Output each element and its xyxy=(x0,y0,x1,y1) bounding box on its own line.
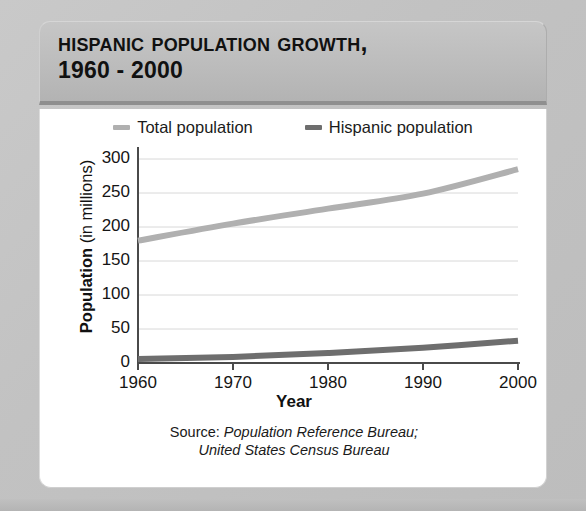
y-axis-tick-label: 0 xyxy=(74,352,130,372)
chart-title-panel: Hispanic Population Growth, 1960 - 2000 xyxy=(39,21,547,105)
page-title: Hispanic Population Growth, 1960 - 2000 xyxy=(58,29,546,82)
chart-title-line-2: 1960 - 2000 xyxy=(58,58,546,82)
source-line-2: United States Census Bureau xyxy=(40,442,548,460)
source-publisher-2: United States Census Bureau xyxy=(198,442,389,458)
bottom-edge-shade xyxy=(0,499,586,511)
figure-container: Hispanic Population Growth, 1960 - 2000 … xyxy=(0,0,586,511)
source-line-1: Source: Population Reference Bureau; xyxy=(40,424,548,442)
source-note: Source: Population Reference Bureau; Uni… xyxy=(40,424,548,459)
y-axis-tick-label: 250 xyxy=(74,182,130,202)
y-axis-tick-label: 100 xyxy=(74,284,130,304)
x-axis-tick-label: 1960 xyxy=(98,373,178,393)
source-prefix: Source: xyxy=(170,424,220,440)
x-axis-title: Year xyxy=(40,392,548,412)
x-axis-tick-label: 2000 xyxy=(478,373,558,393)
x-axis-tick-label: 1980 xyxy=(288,373,368,393)
y-axis-tick-label: 150 xyxy=(74,250,130,270)
x-axis-tick-label: 1970 xyxy=(193,373,273,393)
chart-content-panel: Total population Hispanic population Pop… xyxy=(39,109,547,488)
x-axis-tick-label: 1990 xyxy=(383,373,463,393)
y-axis-tick-label: 200 xyxy=(74,216,130,236)
series-line-hispanic-population xyxy=(138,341,518,359)
y-axis-tick-label: 300 xyxy=(74,148,130,168)
series-line-total-population xyxy=(138,169,518,240)
chart-title-line-1: Hispanic Population Growth, xyxy=(58,29,546,56)
y-axis-tick-label: 50 xyxy=(74,318,130,338)
source-publisher-1: Population Reference Bureau; xyxy=(224,424,418,440)
